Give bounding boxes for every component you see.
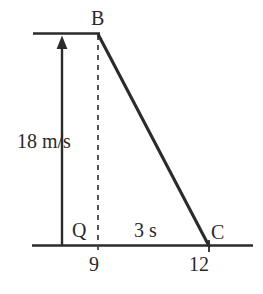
velocity-annotation-label: 18 m/s xyxy=(17,131,71,151)
x-axis-tick-label-9: 9 xyxy=(89,254,99,274)
point-label-b: B xyxy=(91,8,104,28)
figure-container: B Q C 9 12 3 s 18 m/s xyxy=(0,0,263,294)
point-label-c: C xyxy=(211,222,224,242)
x-axis-tick-label-12: 12 xyxy=(189,254,209,274)
duration-annotation-label: 3 s xyxy=(134,220,157,240)
velocity-measure-arrowhead-icon xyxy=(57,36,68,50)
line-segment-BC xyxy=(99,35,210,246)
point-label-q: Q xyxy=(72,220,86,240)
